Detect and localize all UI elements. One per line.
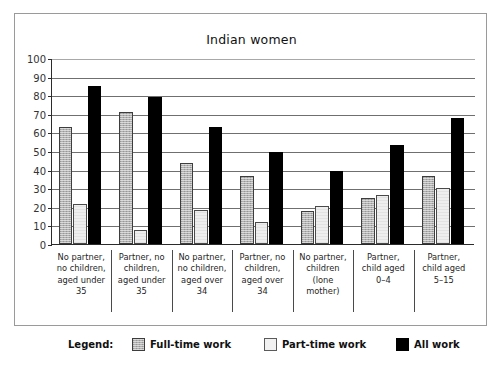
legend-label: Full-time work — [150, 339, 231, 350]
category-separator — [293, 250, 294, 312]
category-label-line: 5–15 — [414, 275, 474, 286]
category-label-line: 0–4 — [353, 275, 413, 286]
category-label-line: aged under — [51, 275, 111, 286]
y-tick-label: 40 — [33, 165, 46, 176]
category-label-line: (lone — [293, 275, 353, 286]
bar-allwork — [451, 118, 465, 244]
bar-allwork — [209, 127, 223, 244]
legend-swatch-fulltime — [132, 338, 145, 351]
category-label-line: Partner, — [414, 252, 474, 263]
bar-parttime — [436, 188, 450, 244]
chart-title: Indian women — [15, 32, 488, 47]
bar-allwork — [269, 152, 283, 244]
category-label-line: child aged — [414, 263, 474, 274]
bar-parttime — [376, 195, 390, 244]
category-separator — [111, 250, 112, 312]
y-tick-label: 90 — [33, 72, 46, 83]
category-separator — [232, 250, 233, 312]
category-label: No partner,children(lonemother) — [293, 248, 353, 316]
category-label-line: aged under — [111, 275, 171, 286]
bar-fulltime — [301, 211, 315, 244]
category-label: Partner,child aged0–4 — [353, 248, 413, 316]
bar-allwork — [88, 86, 102, 244]
bar-fulltime — [180, 163, 194, 244]
category-label-line: 35 — [111, 286, 171, 297]
bar-parttime — [73, 204, 87, 244]
category-label-line: No partner, — [51, 252, 111, 263]
bar-group — [354, 58, 414, 244]
y-tick-label: 30 — [33, 184, 46, 195]
category-label-line: no children, — [172, 263, 232, 274]
chart-legend: Legend: Full-time workPart-time workAll … — [14, 336, 487, 358]
legend-title: Legend: — [68, 339, 113, 350]
category-label-line: No partner, — [293, 252, 353, 263]
category-label-line: children, — [111, 263, 171, 274]
chart-screenshot: Indian women 0102030405060708090100 No p… — [0, 0, 502, 374]
category-label-line: child aged — [353, 263, 413, 274]
category-label-line: No partner, — [172, 252, 232, 263]
legend-swatch-parttime — [264, 338, 277, 351]
category-label-line: children — [293, 263, 353, 274]
bar-fulltime — [422, 176, 436, 244]
category-label-line: Partner, no — [232, 252, 292, 263]
category-label-line: no children, — [51, 263, 111, 274]
y-tick-label: 100 — [27, 54, 46, 65]
category-separator — [172, 250, 173, 312]
y-tick-label: 60 — [33, 128, 46, 139]
bar-allwork — [390, 145, 404, 244]
category-axis: No partner,no children,aged under35Partn… — [51, 248, 474, 316]
bar-fulltime — [59, 127, 73, 244]
y-tick-mark — [48, 245, 52, 246]
category-label: Partner,child aged5–15 — [414, 248, 474, 316]
bar-allwork — [330, 171, 344, 244]
y-tick-label: 70 — [33, 109, 46, 120]
category-label: No partner,no children,aged over34 — [172, 248, 232, 316]
bar-group — [294, 58, 354, 244]
bar-parttime — [194, 210, 208, 244]
category-label-line: aged over — [232, 275, 292, 286]
y-tick-label: 80 — [33, 91, 46, 102]
category-label: Partner, nochildren,aged over34 — [232, 248, 292, 316]
category-label-line: children, — [232, 263, 292, 274]
plot-area: 0102030405060708090100 — [51, 59, 474, 245]
category-separator — [353, 250, 354, 312]
category-label: Partner, nochildren,aged under35 — [111, 248, 171, 316]
category-label-line: aged over — [172, 275, 232, 286]
category-separator — [414, 250, 415, 312]
y-tick-label: 10 — [33, 221, 46, 232]
category-label-line: 34 — [232, 286, 292, 297]
bar-allwork — [148, 97, 162, 244]
bar-group — [173, 58, 233, 244]
category-label: No partner,no children,aged under35 — [51, 248, 111, 316]
y-tick-label: 0 — [40, 240, 46, 251]
y-tick-label: 20 — [33, 202, 46, 213]
legend-label: All work — [414, 339, 460, 350]
bar-group — [112, 58, 172, 244]
bar-fulltime — [240, 176, 254, 244]
category-label-line: Partner, — [353, 252, 413, 263]
legend-label: Part-time work — [282, 339, 366, 350]
bar-parttime — [134, 230, 148, 244]
chart-frame: Indian women 0102030405060708090100 No p… — [14, 13, 487, 326]
bar-fulltime — [361, 198, 375, 245]
bar-group — [415, 58, 475, 244]
category-label-line: Partner, no — [111, 252, 171, 263]
category-label-line: mother) — [293, 286, 353, 297]
bar-parttime — [255, 222, 269, 244]
legend-swatch-allwork — [396, 338, 409, 351]
bar-fulltime — [119, 112, 133, 244]
bar-group — [52, 58, 112, 244]
category-label-line: 34 — [172, 286, 232, 297]
category-label-line: 35 — [51, 286, 111, 297]
bar-parttime — [315, 206, 329, 244]
bar-group — [233, 58, 293, 244]
y-tick-label: 50 — [33, 147, 46, 158]
